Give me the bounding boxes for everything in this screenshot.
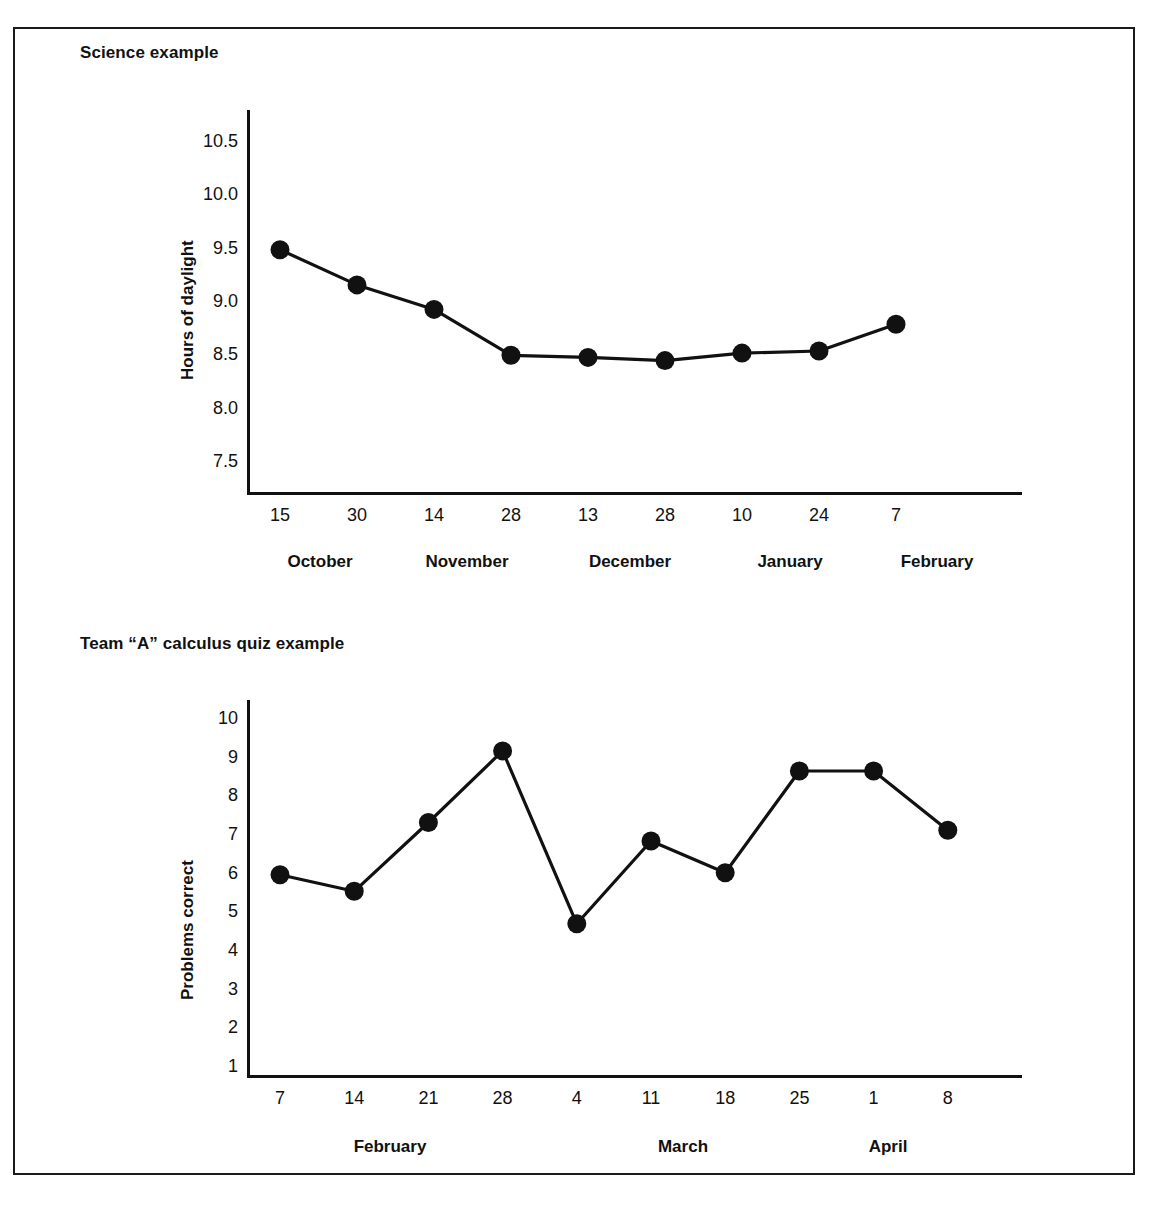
- chart-calculus: 10987654321Problems correct7142128411182…: [0, 0, 1149, 1212]
- data-point-marker: [493, 741, 512, 760]
- data-point-marker: [419, 813, 438, 832]
- data-point-marker: [864, 762, 883, 781]
- data-point-marker: [938, 821, 957, 840]
- data-point-marker: [567, 914, 586, 933]
- data-point-marker: [790, 762, 809, 781]
- page-canvas: Science example 10.510.09.59.08.58.07.5H…: [0, 0, 1149, 1212]
- data-point-marker: [716, 863, 735, 882]
- data-point-marker: [345, 882, 364, 901]
- data-point-marker: [271, 865, 290, 884]
- series-plot: [0, 0, 1149, 1212]
- data-point-marker: [642, 832, 661, 851]
- series-polyline: [280, 751, 948, 924]
